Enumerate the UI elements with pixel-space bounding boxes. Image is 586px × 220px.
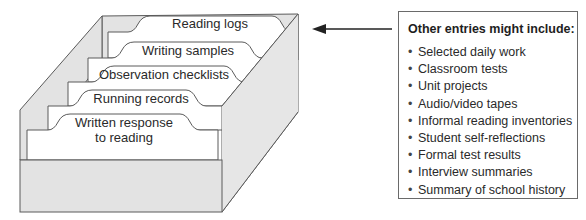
- tab-label-observation-checklists: Observation checklists: [99, 67, 230, 82]
- list-item: •Formal test results: [408, 147, 572, 164]
- bullet-icon: •: [408, 61, 418, 78]
- arrow-left-icon: [312, 24, 392, 34]
- list-item: •Classroom tests: [408, 61, 572, 78]
- bullet-icon: •: [408, 182, 418, 199]
- bullet-icon: •: [408, 164, 418, 181]
- tab-label-written-response-line1: Written response: [75, 115, 173, 130]
- list-item: •Audio/video tapes: [408, 96, 572, 113]
- list-item: •Student self-reflections: [408, 130, 572, 147]
- bullet-icon: •: [408, 78, 418, 95]
- tab-label-writing-samples: Writing samples: [142, 43, 235, 58]
- list-item: •Unit projects: [408, 78, 572, 95]
- box-front-wall: [20, 160, 222, 212]
- bullet-icon: •: [408, 147, 418, 164]
- other-entries-list: •Selected daily work •Classroom tests •U…: [408, 44, 572, 199]
- tab-label-written-response-line2: to reading: [95, 130, 153, 145]
- bullet-icon: •: [408, 113, 418, 130]
- bullet-icon: •: [408, 96, 418, 113]
- other-entries-panel: Other entries might include: •Selected d…: [398, 11, 578, 199]
- other-entries-title: Other entries might include:: [408, 22, 575, 36]
- tab-label-running-records: Running records: [93, 91, 189, 106]
- list-item: •Informal reading inventories: [408, 113, 572, 130]
- bullet-icon: •: [408, 44, 418, 61]
- tab-label-reading-logs: Reading logs: [172, 16, 248, 31]
- list-item: •Interview summaries: [408, 164, 572, 181]
- list-item: •Selected daily work: [408, 44, 572, 61]
- list-item: •Summary of school history: [408, 182, 572, 199]
- bullet-icon: •: [408, 130, 418, 147]
